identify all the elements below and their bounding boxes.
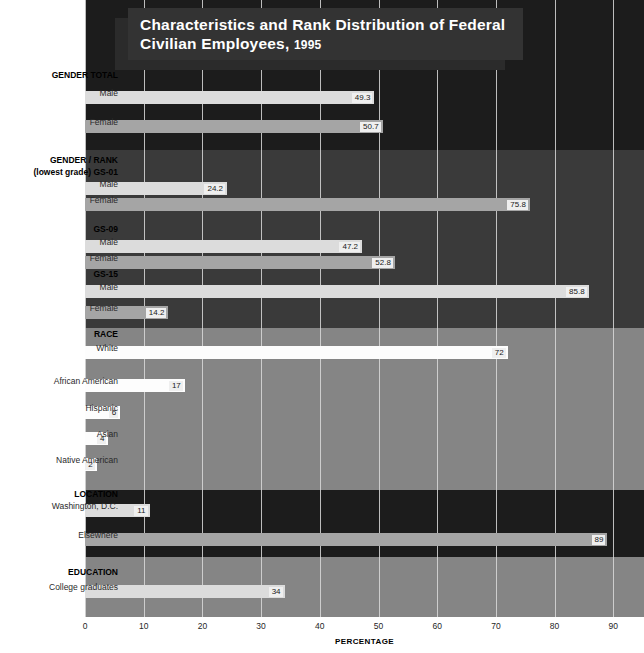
bar-elsewhere-14: 89	[85, 533, 607, 546]
row-label-male-4: Male	[0, 237, 118, 247]
gridline-90	[613, 0, 614, 617]
section-label-gs-09: GS-09	[0, 224, 118, 234]
row-label-african-american-9: African American	[0, 376, 118, 386]
gridline-50	[379, 0, 380, 617]
row-label-college-graduates-15: College graduates	[0, 582, 118, 592]
x-axis-title: PERCENTAGE	[85, 637, 644, 646]
gridline-70	[496, 0, 497, 617]
row-label-native-american-12: Native American	[0, 455, 118, 465]
chart-title-line2: Civilian Employees,	[140, 35, 289, 52]
bar-value-label: 17	[169, 381, 183, 391]
bar-value-label: 52.8	[372, 258, 393, 268]
row-label-female-1: Female	[0, 117, 118, 127]
section-label-education: EDUCATION	[0, 567, 118, 577]
bar-value-label: 50.7	[360, 122, 381, 132]
bar-value-label: 14.2	[146, 308, 167, 318]
bar-value-label: 85.8	[566, 287, 587, 297]
section-label-gender-rank: GENDER / RANK	[0, 155, 118, 165]
bar-male-6: 85.8	[85, 285, 589, 298]
x-tick-60: 60	[432, 621, 441, 631]
gridline-80	[555, 0, 556, 617]
section-band-3	[85, 490, 644, 557]
row-label-washington-d-c--13: Washington, D.C.	[0, 501, 118, 511]
section-label-location: LOCATION	[0, 489, 118, 499]
row-label-male-6: Male	[0, 282, 118, 292]
row-label-asian-11: Asian	[0, 429, 118, 439]
row-label-hispanic-10: Hispanic	[0, 403, 118, 413]
bar-male-0: 49.3	[85, 91, 374, 104]
bar-female-3: 75.8	[85, 198, 530, 211]
bar-value-label: 24.2	[204, 184, 225, 194]
row-label-female-5: Female	[0, 253, 118, 263]
chart-title-year: 1995	[294, 38, 322, 52]
row-label-male-2: Male	[0, 179, 118, 189]
chart-title: Characteristics and Rank Distribution of…	[140, 15, 515, 55]
section-label-gs-15: GS-15	[0, 269, 118, 279]
row-label-male-0: Male	[0, 88, 118, 98]
chart-plot-area: 49.350.724.275.847.252.885.814.272176421…	[85, 0, 644, 617]
section-label--lowest-grade-gs-01: (lowest grade) GS-01	[0, 167, 118, 177]
x-tick-10: 10	[139, 621, 148, 631]
bar-value-label: 47.2	[339, 242, 360, 252]
bar-value-label: 49.3	[352, 93, 373, 103]
bar-value-label: 11	[134, 506, 147, 516]
x-tick-30: 30	[256, 621, 265, 631]
chart-screenshot: 49.350.724.275.847.252.885.814.272176421…	[0, 0, 644, 653]
row-label-elsewhere-14: Elsewhere	[0, 530, 118, 540]
row-label-female-3: Female	[0, 195, 118, 205]
bar-female-1: 50.7	[85, 120, 383, 133]
x-tick-0: 0	[83, 621, 88, 631]
bar-value-label: 75.8	[507, 200, 528, 210]
row-label-female-7: Female	[0, 303, 118, 313]
bar-female-5: 52.8	[85, 256, 395, 269]
bar-value-label: 72	[492, 348, 506, 358]
row-and-section-labels: MaleFemaleMaleFemaleMaleFemaleMaleFemale…	[0, 0, 118, 617]
row-label-white-8: White	[0, 343, 118, 353]
section-band-1	[85, 150, 644, 328]
bar-value-label: 89	[592, 535, 606, 545]
gridline-60	[437, 0, 438, 617]
x-tick-20: 20	[198, 621, 207, 631]
x-tick-70: 70	[491, 621, 500, 631]
bar-value-label: 34	[269, 587, 283, 597]
x-tick-80: 80	[550, 621, 559, 631]
x-tick-40: 40	[315, 621, 324, 631]
chart-title-box: Characteristics and Rank Distribution of…	[128, 8, 523, 60]
x-tick-90: 90	[609, 621, 618, 631]
section-label-gender-total: GENDER TOTAL	[0, 70, 118, 80]
bar-white-8: 72	[85, 346, 508, 359]
x-axis: 0102030405060708090 PERCENTAGE	[85, 617, 644, 653]
x-tick-50: 50	[374, 621, 383, 631]
bar-male-4: 47.2	[85, 240, 362, 253]
chart-title-line1: Characteristics and Rank Distribution of…	[140, 16, 505, 33]
section-label-race: RACE	[0, 329, 118, 339]
